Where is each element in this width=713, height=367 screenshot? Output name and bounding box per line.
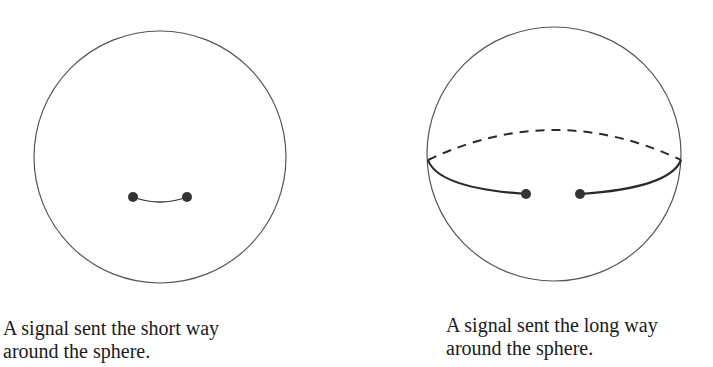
sphere-long-way — [427, 27, 681, 281]
sphere-short-way — [34, 31, 286, 283]
sphere-outline-left — [34, 31, 286, 283]
sphere-outline-right — [427, 27, 681, 281]
endpoint-dot-left-a — [128, 192, 138, 202]
long-signal-path-right — [580, 160, 681, 194]
endpoint-dot-right-b — [575, 189, 585, 199]
sphere-diagrams — [0, 0, 713, 300]
long-signal-path-left — [428, 160, 526, 194]
caption-long-way: A signal sent the long way around the sp… — [446, 314, 658, 360]
endpoint-dot-right-a — [521, 189, 531, 199]
caption-short-way-line2: around the sphere. — [3, 340, 219, 363]
endpoint-dot-left-b — [182, 192, 192, 202]
equator-back-dashed — [428, 130, 681, 160]
caption-short-way-line1: A signal sent the short way — [3, 317, 219, 340]
caption-short-way: A signal sent the short way around the s… — [3, 317, 219, 363]
caption-long-way-line1: A signal sent the long way — [446, 314, 658, 337]
short-signal-path — [133, 197, 187, 202]
caption-long-way-line2: around the sphere. — [446, 337, 658, 360]
